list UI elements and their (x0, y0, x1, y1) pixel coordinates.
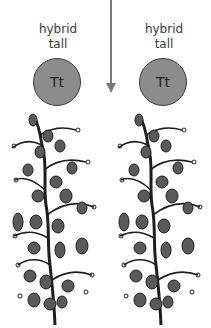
pea-plant-right-icon (118, 114, 202, 325)
pea-plant-left-icon (12, 114, 96, 325)
arrow-down-icon (106, 0, 116, 93)
diagram-graphics (0, 0, 211, 328)
